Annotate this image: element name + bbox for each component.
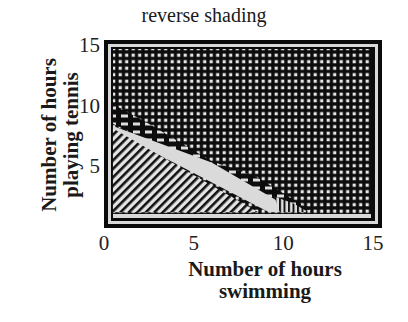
x-axis-label-line-1: Number of hours [140,258,390,280]
x-axis-label: Number of hours swimming [140,258,390,302]
y-axis-label: Number of hours playing tennis [38,58,82,212]
x-tick-label: 10 [273,231,294,256]
x-tick-label: 0 [99,231,110,256]
x-tick-label: 15 [363,231,384,256]
x-axis-label-line-2: swimming [140,280,390,302]
y-tick-label: 5 [90,154,101,179]
y-axis-label-line-1: Number of hours [38,58,60,212]
bottom-light-strip [113,214,371,218]
y-tick-label: 15 [79,33,100,58]
y-axis-label-line-2: playing tennis [60,58,82,212]
x-tick-label: 5 [188,231,199,256]
